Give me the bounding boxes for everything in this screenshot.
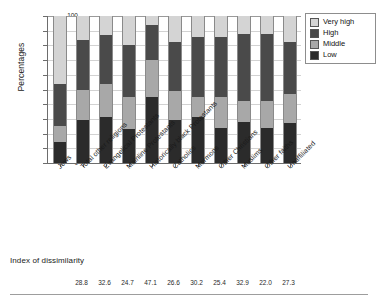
bar-segment-high (145, 25, 159, 60)
bar-other-christians[interactable] (214, 16, 228, 163)
bar-segment-vhigh (191, 16, 205, 37)
legend-item-label: High (323, 29, 338, 37)
legend: Very highHighMiddleLow (305, 13, 376, 64)
bar-jews[interactable] (53, 16, 67, 163)
bar-segment-vhigh (99, 16, 113, 35)
bar-segment-middle (260, 101, 274, 127)
bar-segment-high (168, 42, 182, 91)
bar-segment-vhigh (214, 16, 228, 37)
bar-segment-middle (283, 94, 297, 123)
bar-segment-middle (145, 60, 159, 97)
bar-segment-middle (237, 101, 251, 122)
bar-other-faiths[interactable] (260, 16, 274, 163)
bar-segment-high (99, 35, 113, 84)
bar-segment-vhigh (260, 16, 274, 34)
index-value-row: 28.832.624.747.126.630.225.432.922.027.3 (47, 279, 300, 291)
bar-segment-high (283, 42, 297, 93)
bar-segment-middle (99, 84, 113, 118)
bar-segment-middle (76, 90, 90, 121)
legend-item[interactable]: High (310, 28, 372, 38)
plot-wrapper: Percentages 1009080706050403020100 JewsT… (0, 0, 380, 240)
bar-segment-high (191, 37, 205, 97)
legend-item-label: Low (323, 51, 337, 59)
bar-segment-vhigh (122, 16, 136, 45)
legend-swatch-icon (310, 40, 319, 49)
index-of-dissimilarity-panel: Index of dissimilarity 28.832.624.747.12… (0, 256, 380, 308)
legend-item-label: Very high (323, 18, 354, 26)
legend-item[interactable]: Low (310, 50, 372, 60)
bar-segment-high (76, 40, 90, 90)
bar-segment-high (237, 34, 251, 102)
index-panel-divider (10, 294, 368, 295)
bar-segment-vhigh (145, 16, 159, 25)
legend-item[interactable]: Middle (310, 39, 372, 49)
legend-item-label: Middle (323, 40, 345, 48)
bar-segment-vhigh (168, 16, 182, 42)
bar-segment-vhigh (76, 16, 90, 40)
bar-segment-high (53, 84, 67, 127)
bar-segment-high (260, 34, 274, 102)
bar-total-other-religions[interactable] (76, 16, 90, 163)
y-axis-title: Percentages (16, 12, 26, 122)
bar-segment-middle (53, 126, 67, 142)
bar-segment-high (122, 45, 136, 96)
legend-swatch-icon (310, 29, 319, 38)
bar-segment-high (214, 37, 228, 97)
legend-item[interactable]: Very high (310, 17, 372, 27)
stacked-bar-chart-figure: Percentages 1009080706050403020100 JewsT… (0, 0, 380, 308)
bar-segment-middle (168, 91, 182, 120)
legend-swatch-icon (310, 51, 319, 60)
bar-segment-vhigh (53, 16, 67, 84)
bar-segment-vhigh (237, 16, 251, 34)
legend-swatch-icon (310, 18, 319, 27)
index-panel-title: Index of dissimilarity (10, 256, 84, 265)
x-axis-category-labels: JewsTotal other religionsEvangelical Pro… (47, 165, 300, 235)
bar-segment-vhigh (283, 16, 297, 42)
bar-mormons[interactable] (191, 16, 205, 163)
index-value: 27.3 (276, 279, 302, 286)
